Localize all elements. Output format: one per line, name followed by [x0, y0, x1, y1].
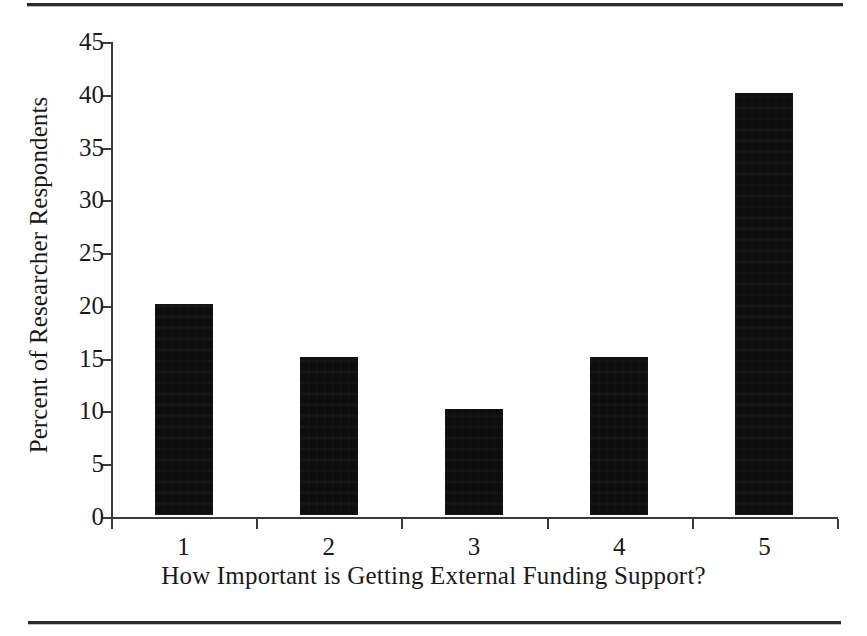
- x-axis-tick-mark: [111, 519, 113, 529]
- bar: [445, 409, 503, 515]
- bar-chart-figure: Percent of Researcher Respondents 051015…: [0, 0, 867, 636]
- x-axis-category-label: 2: [323, 534, 336, 559]
- x-axis-line: [111, 517, 838, 519]
- y-axis-tick-label: 0: [92, 504, 105, 529]
- x-axis-category-label: 1: [177, 534, 190, 559]
- y-axis-tick-label: 20: [79, 293, 104, 318]
- plot-area: 051015202530354045 12345: [111, 42, 837, 517]
- x-axis-tick-mark: [256, 519, 258, 529]
- y-axis-line: [111, 42, 113, 519]
- x-axis-title: How Important is Getting External Fundin…: [0, 562, 867, 590]
- y-axis-tick-label: 10: [79, 398, 104, 423]
- x-axis-tick-mark: [401, 519, 403, 529]
- x-axis-category-label: 4: [613, 534, 626, 559]
- y-axis-tick-label: 25: [79, 240, 104, 265]
- y-axis-tick-label: 30: [79, 187, 104, 212]
- y-axis-title: Percent of Researcher Respondents: [22, 25, 56, 525]
- bar: [590, 357, 648, 515]
- bar: [735, 93, 793, 515]
- y-axis-tick-label: 40: [79, 82, 104, 107]
- x-axis-category-label: 3: [468, 534, 481, 559]
- y-axis-tick-label: 35: [79, 134, 104, 159]
- x-axis-tick-mark: [692, 519, 694, 529]
- x-axis-tick-mark: [547, 519, 549, 529]
- x-axis-tick-mark: [837, 519, 839, 529]
- bar: [155, 304, 213, 515]
- x-axis-category-label: 5: [758, 534, 771, 559]
- bar: [300, 357, 358, 515]
- y-axis-tick-label: 45: [79, 29, 104, 54]
- y-axis-tick-label: 15: [79, 345, 104, 370]
- y-axis-tick-label: 5: [92, 451, 105, 476]
